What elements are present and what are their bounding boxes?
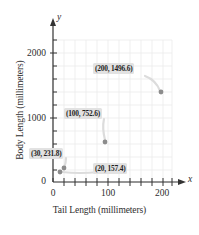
data-point bbox=[159, 90, 164, 95]
leader-line-point-100 bbox=[103, 119, 105, 140]
point-callout-20: (20, 157.4) bbox=[93, 163, 127, 174]
x-tick-label-0: 0 bbox=[43, 188, 63, 198]
y-axis-title: Body Length (millimeters) bbox=[15, 35, 25, 185]
y-axis-letter: y bbox=[57, 12, 61, 22]
x-axis-letter: x bbox=[188, 174, 192, 184]
data-point bbox=[62, 166, 67, 171]
point-callout-30: (30, 231.8) bbox=[29, 148, 63, 159]
scatter-plot-figure: 2000 1000 0 0 100 200 y x Body Length (m… bbox=[0, 0, 199, 235]
data-point bbox=[58, 170, 63, 175]
x-tick-label-200: 200 bbox=[152, 188, 172, 198]
x-axis-title: Tail Length (millimeters) bbox=[0, 205, 199, 215]
leader-line-point-200 bbox=[145, 76, 160, 91]
callout-leader-lines bbox=[62, 76, 160, 173]
data-points bbox=[58, 90, 164, 175]
point-callout-100: (100, 752.6) bbox=[64, 108, 102, 119]
x-tick-label-100: 100 bbox=[98, 188, 118, 198]
point-callout-200: (200, 1496.6) bbox=[93, 63, 134, 74]
data-point bbox=[103, 140, 108, 145]
